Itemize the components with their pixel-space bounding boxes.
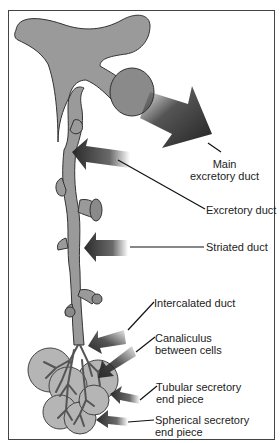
arrow-main-excretory — [140, 86, 212, 148]
label-canaliculus: Canaliculus between cells — [155, 332, 222, 356]
arrow-excretory — [72, 138, 130, 170]
label-spherical-end-piece: Spherical secretory end piece — [155, 414, 249, 438]
duct-illustration — [0, 0, 280, 443]
label-striated-duct: Striated duct — [206, 241, 268, 253]
label-intercalated-duct: Intercalated duct — [154, 297, 235, 309]
label-main-excretory-duct: Main excretory duct — [190, 158, 259, 182]
arrow-striated — [84, 232, 128, 262]
label-tubular-end-piece: Tubular secretory end piece — [156, 381, 241, 405]
label-excretory-duct: Excretory duct — [206, 204, 276, 216]
arrow-intercalated — [88, 330, 126, 354]
